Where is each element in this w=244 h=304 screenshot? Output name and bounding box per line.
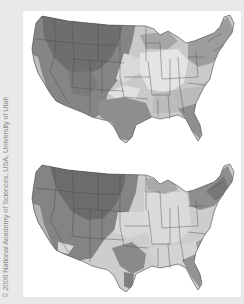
copyright-credit: © 2006 National Academy of Sciences, USA… bbox=[1, 96, 10, 298]
us-map-top bbox=[28, 13, 238, 147]
page-margin bbox=[0, 297, 244, 304]
us-map-bottom bbox=[28, 162, 238, 296]
